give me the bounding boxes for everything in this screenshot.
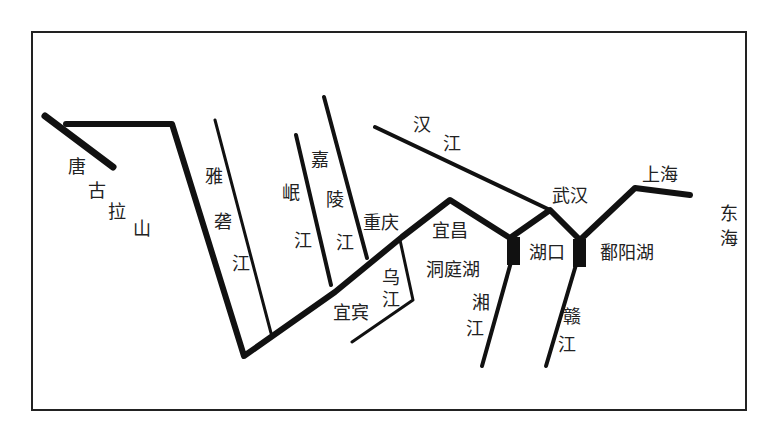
label-jialing-river: 陵 — [326, 191, 344, 209]
label-yalong-river: 江 — [232, 255, 250, 273]
dongting-lake-marker — [507, 237, 520, 265]
label-tanggula: 拉 — [108, 203, 126, 221]
label-wu-river: 乌 — [382, 269, 400, 287]
label-poyang-lake: 鄱阳湖 — [600, 244, 654, 262]
label-gan-river: 赣 — [563, 308, 581, 326]
label-dongting-lake: 洞庭湖 — [426, 261, 480, 279]
label-shanghai: 上海 — [642, 166, 678, 184]
label-xiang-river: 江 — [466, 320, 484, 338]
label-wuhan: 武汉 — [552, 187, 588, 205]
label-wu-river: 江 — [382, 291, 400, 309]
label-min-river: 岷 — [282, 184, 300, 202]
label-jialing-river: 江 — [336, 234, 354, 252]
label-east-sea: 海 — [720, 230, 738, 248]
label-east-sea: 东 — [720, 205, 738, 223]
label-gan-river: 江 — [558, 336, 576, 354]
label-hukou: 湖口 — [529, 244, 565, 262]
label-chongqing: 重庆 — [363, 214, 399, 232]
label-xiang-river: 湘 — [472, 294, 490, 312]
label-min-river: 江 — [294, 232, 312, 250]
label-tanggula: 古 — [88, 182, 106, 200]
label-han-river: 江 — [443, 135, 461, 153]
label-tanggula: 山 — [133, 220, 151, 238]
label-yalong-river: 雅 — [205, 168, 223, 186]
label-tanggula: 唐 — [68, 158, 86, 176]
label-yibin: 宜宾 — [333, 304, 369, 322]
label-yichang: 宜昌 — [432, 222, 468, 240]
label-jialing-river: 嘉 — [311, 151, 329, 169]
label-yalong-river: 砻 — [214, 213, 232, 231]
han-river-line — [375, 127, 550, 210]
poyang-lake-marker — [573, 239, 586, 267]
label-han-river: 汉 — [413, 116, 431, 134]
yangtze-main-stem — [66, 124, 690, 356]
